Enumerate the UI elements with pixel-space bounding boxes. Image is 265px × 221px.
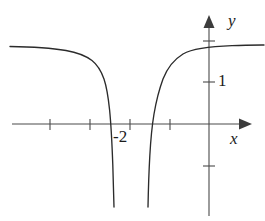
y-axis-label: y <box>228 12 236 29</box>
y-tick-label-1: 1 <box>218 72 227 89</box>
curve-left-branch <box>10 47 114 208</box>
x-tick-label-minus-2: -2 <box>113 128 127 145</box>
plot-canvas <box>0 0 265 221</box>
y-axis-arrow-icon <box>204 15 215 28</box>
function-graph-figure: y x -2 1 <box>0 0 265 221</box>
x-axis-label: x <box>230 130 238 147</box>
x-axis-arrow-icon <box>239 119 252 130</box>
